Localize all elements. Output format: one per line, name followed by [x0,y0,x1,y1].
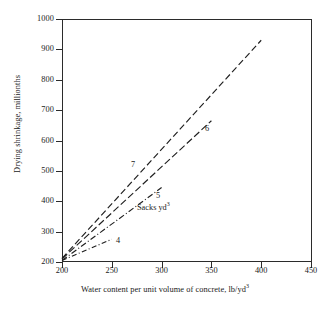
y-axis-title: Drying shrinkage, millionths [13,29,23,219]
curve-label-5: 5 [156,191,160,200]
x-axis-title-text: Water content per unit volume of concret… [81,285,246,294]
series-line-5 [62,188,162,261]
curve-label-7: 7 [131,160,135,169]
chart-container: 1000 900 800 700 600 500 400 300 200 200… [0,0,330,315]
curve-label-4: 4 [116,236,120,245]
sacks-unit-text: Sacks yd [137,203,167,212]
x-axis-title: Water content per unit volume of concret… [0,285,330,295]
curve-label-6: 6 [205,124,209,133]
data-curves [0,0,330,315]
sacks-unit-annotation: Sacks yd3 [137,203,170,212]
series-line-6 [62,121,211,259]
sacks-unit-superscript: 3 [167,201,170,207]
x-axis-title-superscript: 3 [246,283,249,289]
series-line-7 [62,40,261,258]
